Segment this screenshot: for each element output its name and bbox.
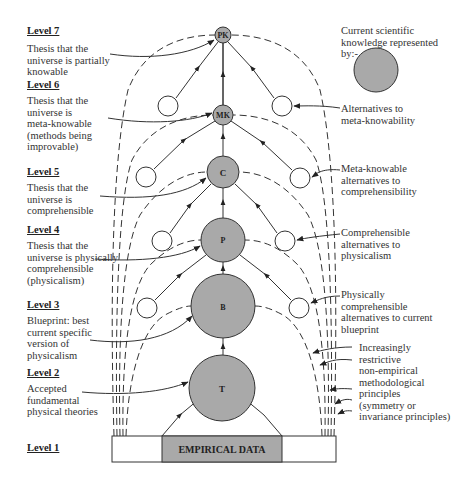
level-7-description: Thesis that theuniverse is partiallyknow… (27, 43, 110, 78)
level-3-description: Blueprint: bestcurrent specificversion o… (27, 315, 92, 361)
empirical-data-label: EMPIRICAL DATA (178, 444, 266, 455)
annotation-methodological-principles: Increasinglyrestrictivenon-empiricalmeth… (359, 342, 450, 423)
left-pointers (82, 40, 214, 394)
boundary-p-left (123, 240, 201, 436)
alt-circle-c-right (275, 231, 295, 251)
boundary-p-right (245, 240, 325, 436)
level-7-label: Level 7 (27, 25, 59, 36)
level-2-description: Acceptedfundamentalphysical theories (27, 383, 98, 418)
knowledge-nodes (189, 27, 255, 421)
node-p-label: P (221, 236, 226, 245)
node-t-label: T (219, 384, 225, 394)
level-3-label: Level 3 (27, 299, 59, 310)
alt-circle-pk-left (158, 96, 178, 116)
level-6-label: Level 6 (27, 79, 59, 90)
level-5-description: Thesis that theuniverse iscomprehensible (27, 182, 93, 217)
level-2-label: Level 2 (27, 367, 59, 378)
node-b-label: B (220, 303, 226, 312)
node-pk-label: PK (217, 31, 229, 40)
alt-circle-p-right (289, 298, 309, 318)
legend-text: Current scientificknowledge representedb… (341, 25, 438, 60)
empirical-data-base: EMPIRICAL DATA (112, 436, 336, 462)
level-1-label: Level 1 (27, 442, 59, 453)
node-c-label: C (220, 168, 227, 178)
alt-circle-c-left (152, 231, 172, 251)
annotation-meta-knowable-alternatives: Meta-knowablealternatives tocomprehensib… (341, 163, 417, 198)
level-4-label: Level 4 (27, 224, 59, 235)
alt-circle-p-left (137, 298, 157, 318)
alt-circle-mk-right (290, 168, 310, 188)
level-5-label: Level 5 (27, 166, 59, 177)
node-mk-label: MK (216, 111, 231, 120)
annotation-alternatives-meta-knowability: Alternatives tometa-knowability (341, 103, 415, 126)
annotation-physically-comprehensible-alternatives: Physicallycomprehensiblealternatives to … (341, 289, 433, 335)
alt-circle-mk-left (136, 167, 156, 187)
level-4-description: Thesis that theuniverse is physicallycom… (27, 240, 118, 286)
annotation-comprehensible-alternatives: Comprehensiblealternatives tophysicalism (341, 227, 410, 262)
level-6-description: Thesis that theuniverse ismeta-knowable(… (27, 95, 92, 153)
alt-circle-pk-right (272, 96, 292, 116)
